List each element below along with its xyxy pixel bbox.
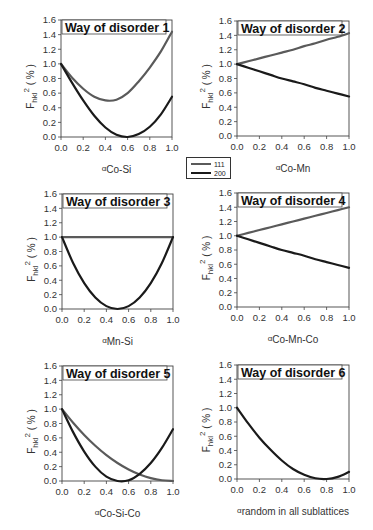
y-tick-label: 0.8 bbox=[43, 73, 56, 84]
x-tick-label: 0.6 bbox=[122, 314, 135, 325]
y-tick-label: 1.4 bbox=[44, 375, 57, 386]
y-tick-label: 0.2 bbox=[219, 116, 232, 127]
legend-label-200: 200 bbox=[214, 169, 226, 178]
chart-panel-3: 0.00.20.40.60.81.01.21.41.60.00.20.40.60… bbox=[23, 188, 180, 347]
y-tick-label: 0.8 bbox=[219, 73, 232, 84]
x-tick-label: 0.2 bbox=[78, 486, 91, 497]
y-tick-label: 0.4 bbox=[219, 445, 232, 456]
y-tick-label: 0.2 bbox=[44, 461, 57, 472]
figure: 0.00.20.40.60.81.01.21.41.60.00.20.40.60… bbox=[0, 0, 373, 530]
chart-title: Way of disorder 2 bbox=[241, 22, 345, 36]
x-tick-label: 0.8 bbox=[320, 141, 333, 152]
chart-title: Way of disorder 1 bbox=[65, 21, 169, 35]
chart-panel-5: 0.00.20.40.60.81.01.21.41.60.00.20.40.60… bbox=[23, 360, 180, 519]
x-tick-label: 0.6 bbox=[298, 141, 311, 152]
plot-area bbox=[62, 194, 173, 309]
y-tick-label: 1.6 bbox=[43, 14, 56, 25]
y-tick-label: 1.2 bbox=[43, 44, 56, 55]
y-tick-label: 1.0 bbox=[44, 403, 57, 414]
y-tick-label: 1.4 bbox=[219, 30, 232, 41]
x-axis-label: αCo-Mn bbox=[276, 163, 311, 174]
chart-title: Way of disorder 5 bbox=[66, 367, 170, 381]
x-tick-label: 0.0 bbox=[54, 142, 67, 153]
x-axis-label: αrandom in all sublattices bbox=[237, 506, 349, 517]
y-tick-label: 0.0 bbox=[44, 303, 57, 314]
y-tick-label: 0.4 bbox=[43, 102, 56, 113]
x-tick-label: 0.8 bbox=[144, 314, 157, 325]
y-tick-label: 0.4 bbox=[44, 447, 57, 458]
y-tick-label: 0.4 bbox=[219, 273, 232, 284]
y-tick-label: 1.2 bbox=[219, 216, 232, 227]
y-tick-label: 0.6 bbox=[44, 260, 57, 271]
y-tick-label: 1.4 bbox=[219, 202, 232, 213]
y-tick-label: 1.2 bbox=[44, 389, 57, 400]
y-tick-label: 0.6 bbox=[43, 87, 56, 98]
y-tick-label: 1.0 bbox=[219, 402, 232, 413]
y-tick-label: 1.2 bbox=[219, 388, 232, 399]
y-tick-label: 1.6 bbox=[44, 360, 57, 371]
y-tick-label: 0.6 bbox=[219, 87, 232, 98]
y-tick-label: 1.4 bbox=[219, 374, 232, 385]
y-tick-label: 0.0 bbox=[43, 131, 56, 142]
y-tick-label: 1.0 bbox=[219, 58, 232, 69]
y-axis-label: Fhkl2 ( % ) bbox=[198, 236, 215, 281]
x-tick-label: 1.0 bbox=[165, 142, 178, 153]
y-tick-label: 1.4 bbox=[44, 203, 57, 214]
x-tick-label: 0.0 bbox=[55, 314, 68, 325]
x-axis-label: αCo-Mn-Co bbox=[268, 334, 319, 345]
x-tick-label: 0.6 bbox=[122, 486, 135, 497]
chart-panel-4: 0.00.20.40.60.81.01.21.41.60.00.20.40.60… bbox=[198, 187, 356, 345]
x-tick-label: 0.8 bbox=[320, 312, 333, 323]
legend-swatch-111 bbox=[191, 163, 211, 165]
y-tick-label: 1.0 bbox=[44, 231, 57, 242]
legend-entry-200: 200 bbox=[191, 169, 231, 178]
plot-area bbox=[237, 365, 349, 479]
y-tick-label: 1.6 bbox=[44, 188, 57, 199]
y-tick-label: 0.2 bbox=[219, 459, 232, 470]
y-tick-label: 1.0 bbox=[43, 58, 56, 69]
y-axis-label: Fhkl2 ( % ) bbox=[198, 408, 215, 453]
y-tick-label: 1.2 bbox=[219, 44, 232, 55]
y-tick-label: 0.8 bbox=[44, 418, 57, 429]
x-tick-label: 0.2 bbox=[253, 141, 266, 152]
y-tick-label: 0.0 bbox=[44, 475, 57, 486]
y-tick-label: 0.8 bbox=[44, 246, 57, 257]
x-tick-label: 1.0 bbox=[342, 141, 355, 152]
y-tick-label: 0.4 bbox=[44, 275, 57, 286]
x-tick-label: 0.6 bbox=[298, 312, 311, 323]
x-tick-label: 0.8 bbox=[144, 486, 157, 497]
x-tick-label: 0.4 bbox=[100, 314, 113, 325]
y-tick-label: 0.2 bbox=[43, 117, 56, 128]
chart-panel-2: 0.00.20.40.60.81.01.21.41.60.00.20.40.60… bbox=[198, 15, 356, 174]
x-tick-label: 0.0 bbox=[230, 141, 243, 152]
chart-grid: 0.00.20.40.60.81.01.21.41.60.00.20.40.60… bbox=[0, 0, 373, 530]
y-tick-label: 0.0 bbox=[219, 301, 232, 312]
y-tick-label: 0.0 bbox=[219, 473, 232, 484]
chart-title: Way of disorder 3 bbox=[66, 195, 170, 209]
y-tick-label: 0.0 bbox=[219, 130, 232, 141]
x-tick-label: 0.4 bbox=[275, 484, 288, 495]
chart-title: Way of disorder 6 bbox=[241, 366, 345, 380]
y-axis-label: Fhkl2 ( % ) bbox=[23, 237, 40, 282]
legend-label-111: 111 bbox=[214, 160, 225, 169]
x-tick-label: 0.0 bbox=[55, 486, 68, 497]
x-tick-label: 0.2 bbox=[253, 312, 266, 323]
y-tick-label: 0.6 bbox=[219, 259, 232, 270]
chart-panel-6: 0.00.20.40.60.81.01.21.41.60.00.20.40.60… bbox=[198, 359, 356, 517]
y-tick-label: 1.0 bbox=[219, 230, 232, 241]
y-tick-label: 1.4 bbox=[43, 29, 56, 40]
y-tick-label: 1.2 bbox=[44, 217, 57, 228]
y-tick-label: 1.6 bbox=[219, 187, 232, 198]
x-tick-label: 0.0 bbox=[230, 312, 243, 323]
chart-title: Way of disorder 4 bbox=[241, 194, 345, 208]
x-tick-label: 0.6 bbox=[298, 484, 311, 495]
x-tick-label: 0.2 bbox=[253, 484, 266, 495]
y-tick-label: 0.8 bbox=[219, 244, 232, 255]
x-axis-label: αCo-Si bbox=[102, 164, 132, 175]
x-tick-label: 1.0 bbox=[342, 312, 355, 323]
legend-entry-111: 111 bbox=[191, 160, 231, 169]
x-axis-label: αMn-Si bbox=[102, 336, 133, 347]
plot-area bbox=[61, 20, 172, 137]
x-tick-label: 0.8 bbox=[320, 484, 333, 495]
chart-panel-1: 0.00.20.40.60.81.01.21.41.60.00.20.40.60… bbox=[22, 14, 179, 175]
